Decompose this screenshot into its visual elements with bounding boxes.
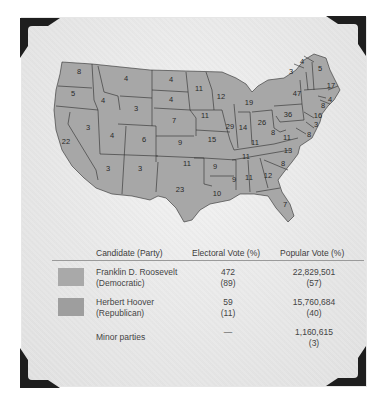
state-label-ok: 11 [183,159,191,168]
state-label-vt: 3 [289,67,293,76]
state-label-ut: 4 [110,131,114,140]
state-label-sd: 4 [169,95,173,104]
popular-vote: 1,160,615 [274,327,354,338]
header-electoral-vote: Electoral Vote (%) [192,248,260,258]
state-label-sc: 8 [281,159,285,168]
popular-vote-pct: (3) [274,338,354,349]
state-label-ar: 9 [213,162,217,171]
candidate-cell: Herbert Hoover (Republican) [96,297,154,319]
state-label-me: 5 [318,64,322,73]
state-label-fl: 7 [283,200,287,209]
table-header: Candidate (Party) Electoral Vote (%) Pop… [52,246,364,261]
state-label-oh: 26 [258,118,266,127]
state-label-ny: 47 [293,89,301,98]
candidate-name: Minor parties [96,332,145,343]
candidate-party: (Democratic) [96,278,177,289]
state-label-nv: 3 [86,123,90,132]
state-label-mt: 4 [124,74,128,83]
electoral-vote: 472 [198,267,258,278]
popular-vote: 15,760,684 [274,297,354,308]
state-label-ne: 7 [172,116,176,125]
state-label-ky: 11 [251,138,259,147]
electoral-vote-pct: (11) [198,308,258,319]
candidate-name: Herbert Hoover [96,297,154,308]
republican-swatch [58,298,84,316]
state-label-ms: 9 [232,175,236,184]
state-label-nc: 13 [284,146,292,155]
state-label-ca: 22 [62,137,70,146]
state-label-tn: 11 [242,152,250,161]
state-label-az: 3 [106,164,110,173]
state-label-ga: 12 [264,171,272,180]
state-label-in: 14 [239,123,247,132]
state-label-ks: 9 [178,138,182,147]
table-row-minor-parties: Minor parties — 1,160,615 (3) [52,321,364,351]
popular-vote: 22,829,501 [274,267,354,278]
state-label-al: 11 [245,173,253,182]
electoral-vote: 59 [198,297,258,308]
state-label-wv: 8 [271,128,275,137]
state-label-or: 5 [71,89,75,98]
electoral-vote-pct: (89) [198,278,258,289]
header-popular-vote: Popular Vote (%) [280,248,344,258]
popular-vote-pct: (57) [274,278,354,289]
state-label-ri: 4 [328,95,332,104]
state-label-mo: 15 [208,135,216,144]
state-label-id: 4 [101,96,105,105]
table-row-roosevelt: Franklin D. Roosevelt (Democratic) 472 (… [52,261,364,291]
state-label-nd: 4 [169,75,173,84]
election-results-table: Candidate (Party) Electoral Vote (%) Pop… [52,246,364,351]
state-label-pa: 36 [284,110,292,119]
state-label-wi: 12 [217,92,225,101]
popular-vote-pct: (40) [274,308,354,319]
democratic-swatch [58,268,84,286]
popular-vote-cell: 22,829,501 (57) [274,267,354,289]
state-label-nm: 3 [138,164,142,173]
state-label-wy: 3 [134,104,138,113]
state-label-va: 11 [283,133,291,142]
state-label-wa: 8 [77,67,81,76]
state-label-ia: 11 [201,111,209,120]
state-label-co: 6 [142,135,146,144]
state-label-ct: 8 [321,101,325,110]
header-candidate: Candidate (Party) [96,248,163,258]
electoral-vote-cell: — [198,327,258,338]
electoral-vote-cell: 59 (11) [198,297,258,319]
state-label-nh: 4 [300,57,304,66]
state-label-la: 10 [213,189,221,198]
candidate-cell: Minor parties [96,332,145,343]
state-label-de: 3 [314,120,318,129]
popular-vote-cell: 15,760,684 (40) [274,297,354,319]
state-label-mi: 19 [245,98,253,107]
photo-corner-bottom-left [20,348,60,388]
state-label-mn: 11 [195,84,203,93]
us-electoral-map: 8 5 22 4 3 4 3 4 6 3 3 4 4 7 9 11 23 11 … [0,0,384,240]
candidate-name: Franklin D. Roosevelt [96,267,177,278]
state-label-md: 8 [307,130,311,139]
state-label-il: 29 [226,122,234,131]
candidate-cell: Franklin D. Roosevelt (Democratic) [96,267,177,289]
candidate-party: (Republican) [96,308,154,319]
electoral-vote: — [198,327,258,338]
popular-vote-cell: 1,160,615 (3) [274,327,354,349]
table-row-hoover: Herbert Hoover (Republican) 59 (11) 15,7… [52,291,364,321]
photo-corner-bottom-right [326,346,366,386]
electoral-vote-cell: 472 (89) [198,267,258,289]
state-label-tx: 23 [176,185,184,194]
state-label-nj: 16 [314,111,322,120]
state-label-ma: 17 [327,81,335,90]
